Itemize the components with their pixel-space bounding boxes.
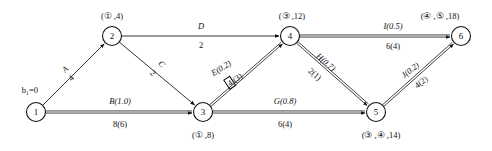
- edge-line-J: [382, 43, 452, 105]
- node-2-number: 2: [102, 26, 122, 46]
- edge-D-up-label: D: [198, 21, 204, 31]
- edge-B-up-label: B(1.0): [109, 96, 130, 106]
- edge-line-E: [211, 44, 283, 107]
- edge-line-J: [384, 44, 454, 106]
- edge-I-up-label: I(0.5): [383, 21, 402, 31]
- node-5-label: (③ ,④ ,14): [362, 130, 401, 140]
- edge-G-low-label: 6(4): [278, 119, 292, 129]
- network-diagram: A4B(1.0)8(6)C2D2E(0.2)4(3)G(0.8)6(4)H(0.…: [0, 0, 492, 151]
- edge-layer: [0, 0, 492, 151]
- edge-G-up-label: G(0.8): [274, 96, 296, 106]
- node-4-number: 4: [280, 26, 300, 46]
- node-3-label: (① ,8): [192, 130, 214, 140]
- node-6-label: (④ ,⑤ ,18): [421, 11, 460, 21]
- node-4-label: (③ ,12): [279, 11, 305, 21]
- node-2-label: (① ,4): [101, 11, 123, 21]
- edge-D-low-label: 2: [199, 40, 203, 50]
- node-5-number: 5: [366, 102, 386, 122]
- node-1-label: b₁=0: [22, 85, 38, 95]
- edge-line-A: [43, 44, 105, 106]
- node-1-number: 1: [26, 102, 46, 122]
- node-6-number: 6: [451, 26, 471, 46]
- edge-I-low-label: 6(4): [386, 41, 400, 51]
- node-3-number: 3: [193, 102, 213, 122]
- edge-B-low-label: 8(6): [113, 119, 127, 129]
